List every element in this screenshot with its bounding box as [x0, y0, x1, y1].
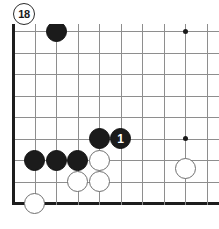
- stone-white[interactable]: [89, 150, 110, 171]
- stone-black[interactable]: [67, 150, 88, 171]
- grid-line-vertical: [142, 24, 143, 205]
- grid-line-vertical: [164, 24, 165, 205]
- grid-line-vertical: [121, 24, 122, 205]
- stone-black[interactable]: [89, 128, 110, 149]
- stone-white[interactable]: [89, 171, 110, 192]
- board-left-border: [12, 24, 15, 205]
- stone-move-number: 1: [117, 133, 124, 145]
- figure-number-label: 18: [18, 8, 30, 20]
- grid-line-horizontal: [12, 117, 219, 118]
- figure-number-badge: 18: [13, 3, 35, 25]
- stone-black-numbered[interactable]: 1: [110, 128, 131, 149]
- grid-line-vertical: [35, 24, 36, 205]
- stone-black[interactable]: [24, 150, 45, 171]
- stone-white[interactable]: [67, 171, 88, 192]
- go-board[interactable]: 1: [0, 24, 219, 229]
- grid-line-horizontal: [12, 96, 219, 97]
- grid-line-horizontal: [12, 53, 219, 54]
- grid-line-horizontal: [12, 74, 219, 75]
- grid-line-vertical: [207, 24, 208, 205]
- star-point: [183, 29, 188, 34]
- stone-white[interactable]: [24, 193, 45, 214]
- grid-line-horizontal: [12, 31, 219, 32]
- grid-line-vertical: [56, 24, 57, 205]
- star-point: [183, 136, 188, 141]
- stone-black[interactable]: [46, 150, 67, 171]
- stone-black[interactable]: [46, 24, 67, 42]
- stone-white[interactable]: [175, 158, 196, 179]
- grid-line-horizontal: [12, 182, 219, 183]
- go-diagram: 18 1: [0, 0, 219, 229]
